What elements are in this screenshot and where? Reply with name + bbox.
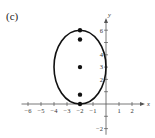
x-tick-label: −2 [77, 107, 84, 114]
x-tick-label: 2 [130, 107, 133, 114]
point-focus [78, 37, 82, 41]
point-vertex [78, 28, 82, 32]
point-vertex [78, 102, 82, 106]
y-tick-label: 2 [100, 76, 103, 83]
y-axis-arrow-icon [104, 18, 108, 23]
y-axis-label: y [107, 11, 111, 18]
y-tick-label: 6 [100, 27, 104, 34]
x-tick-label: 1 [117, 107, 120, 114]
x-tick-label: −4 [51, 107, 59, 114]
x-tick-label: −6 [25, 107, 33, 114]
ellipse-plot: xy−6−5−4−3−2−112−22346 [0, 0, 155, 138]
x-axis-arrow-icon [140, 102, 145, 106]
x-tick-label: −5 [38, 107, 45, 114]
point-focus [78, 92, 82, 96]
x-tick-label: −1 [90, 107, 97, 114]
x-axis-label: x [146, 100, 150, 107]
y-tick-label: 3 [100, 63, 103, 70]
point-center [78, 65, 82, 69]
x-tick-label: −3 [64, 107, 71, 114]
y-tick-label: −2 [96, 125, 103, 132]
